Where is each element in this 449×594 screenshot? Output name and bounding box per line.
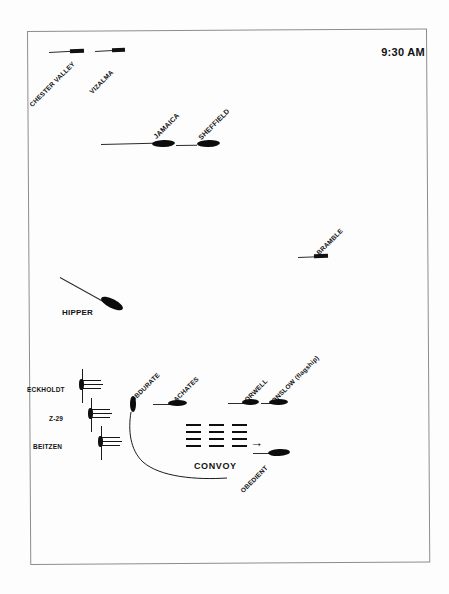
unit-label-beitzen: BEITZEN: [33, 443, 62, 450]
convoy-ship: [186, 431, 201, 433]
chester-valley-hull: [70, 49, 84, 54]
unit-label-hipper: HIPPER: [62, 308, 93, 317]
convoy-label: CONVOY: [194, 461, 237, 471]
convoy-ship: [186, 438, 201, 440]
convoy-ship: [186, 445, 201, 447]
convoy-ship: [232, 438, 247, 440]
convoy-ship: [232, 445, 247, 447]
convoy-ship: [209, 431, 224, 433]
beitzen-symbol: [94, 426, 128, 460]
convoy-ship: [209, 424, 224, 426]
timestamp-label: 9:30 AM: [381, 46, 425, 58]
destroyer-fan-line: [102, 441, 122, 442]
destroyer-fan-line: [102, 437, 120, 438]
convoy-heading-arrow: →: [250, 436, 263, 449]
convoy-ship: [186, 424, 201, 426]
convoy-ship: [232, 424, 247, 426]
destroyer-fan-line: [92, 417, 110, 418]
destroyer-fan-line: [102, 445, 120, 446]
convoy-ship: [232, 431, 247, 433]
destroyer-fan-line: [83, 384, 103, 385]
diagram-frame: [27, 29, 430, 565]
destroyer-fan-line: [92, 409, 110, 410]
destroyer-fan-line: [83, 380, 101, 381]
unit-label-z29: Z-29: [49, 415, 63, 422]
destroyer-fan-line: [92, 413, 112, 414]
unit-label-eckholdt: ECKHOLDT: [27, 386, 65, 393]
battle-diagram-page: 9:30 AM CHESTER VALLEY VIZALMA JAMAICA S…: [0, 0, 449, 594]
vizalma-hull: [112, 48, 125, 53]
destroyer-fan-line: [83, 388, 101, 389]
convoy-ship: [209, 438, 224, 440]
convoy-block: →: [186, 424, 246, 454]
convoy-ship: [209, 445, 224, 447]
